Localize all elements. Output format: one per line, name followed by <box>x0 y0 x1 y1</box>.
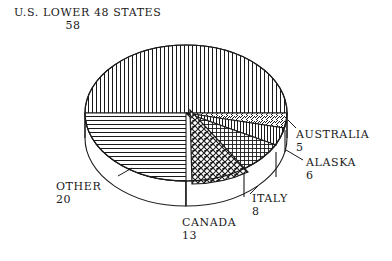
slice-label-canada: CANADA 13 <box>182 216 248 242</box>
slice-label-italy: ITALY 8 <box>252 192 304 218</box>
slice-label-italy-name: ITALY <box>252 192 304 205</box>
pie-chart-figure: U.S. LOWER 48 STATES 58 AUSTRALIA 5 ALAS… <box>0 0 392 261</box>
slice-label-canada-value: 13 <box>182 229 248 242</box>
slice-label-australia-value: 5 <box>296 141 388 154</box>
slice-label-us-lower-48: U.S. LOWER 48 STATES 58 <box>14 6 161 32</box>
slice-label-other-value: 20 <box>56 193 118 206</box>
slice-label-other-name: OTHER <box>56 180 118 193</box>
leader-line-australia <box>288 120 296 128</box>
slice-label-other: OTHER 20 <box>56 180 118 206</box>
slice-label-alaska: ALASKA 6 <box>306 156 380 182</box>
slice-label-australia: AUSTRALIA 5 <box>296 128 388 154</box>
pie-slice-us-lower-48 <box>85 45 287 113</box>
slice-label-alaska-value: 6 <box>306 169 380 182</box>
slice-label-italy-value: 8 <box>252 205 304 218</box>
slice-label-us-lower-48-value: 58 <box>14 19 132 32</box>
slice-label-alaska-name: ALASKA <box>306 156 380 169</box>
slice-label-canada-name: CANADA <box>182 216 248 229</box>
slice-label-us-lower-48-name: U.S. LOWER 48 STATES <box>14 6 161 19</box>
slice-label-australia-name: AUSTRALIA <box>296 128 388 141</box>
